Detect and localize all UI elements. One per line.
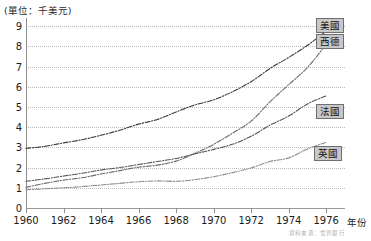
series-line-美國 [26,31,326,148]
x-axis-tick [176,208,177,213]
y-axis-tick-label: 4 [4,122,22,133]
gridline [26,87,345,88]
series-label-france: 法國 [316,104,344,119]
series-label-uk: 英國 [314,146,342,161]
x-axis-tick [101,208,102,213]
y-axis-line [26,18,27,208]
x-axis-tick [214,208,215,213]
gridline [26,147,345,148]
x-axis-tick [289,208,290,213]
gridline [26,168,345,169]
y-axis-tick-label: 8 [4,41,22,52]
x-axis-tick-label: 1968 [163,215,188,226]
x-axis-tick [251,208,252,213]
x-axis-title: 年份 [347,215,367,229]
y-axis-tick-label: 1 [4,182,22,193]
x-axis-tick-label: 1970 [201,215,226,226]
x-axis-tick-label: 1972 [238,215,263,226]
y-axis-tick-label: 3 [4,142,22,153]
y-axis-tick-label: 9 [4,21,22,32]
x-axis-tick-label: 1960 [13,215,38,226]
unit-caption: (單位：千美元) [4,3,71,17]
series-line-英國 [26,142,326,190]
gridline [26,46,345,47]
source-note: 資料來源：世界銀行 [289,229,345,237]
gridline [26,26,345,27]
gridline [26,67,345,68]
x-axis-tick [139,208,140,213]
gridline [26,107,345,108]
x-axis-tick-label: 1976 [314,215,339,226]
y-axis-tick-label: 5 [4,101,22,112]
y-axis-tick-label: 7 [4,61,22,72]
series-label-west-germany: 西德 [316,34,344,49]
chart-root: (單位：千美元) 0123456789 19601962196419661968… [0,0,371,241]
gridline [26,127,345,128]
y-axis-tick-label: 0 [4,203,22,214]
gridline [26,188,345,189]
y-axis-tick-label: 6 [4,81,22,92]
x-axis-tick-label: 1974 [276,215,301,226]
x-axis-tick [326,208,327,213]
x-axis-line [26,208,345,209]
series-label-usa: 美國 [316,18,344,33]
x-axis-tick-label: 1962 [51,215,76,226]
y-axis-tick-label: 2 [4,162,22,173]
x-axis-tick-label: 1966 [126,215,151,226]
x-axis-tick-label: 1964 [88,215,113,226]
x-axis-tick [64,208,65,213]
x-axis-tick [26,208,27,213]
